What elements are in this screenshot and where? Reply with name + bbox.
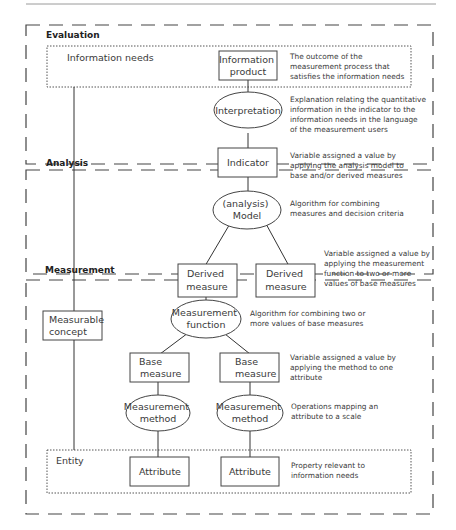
desc-interpretation: Explanation relating the quantitative in…	[290, 95, 428, 134]
desc-attribute: Property relevant to information needs	[291, 461, 367, 480]
desc-derived-measure: Variable assigned a value by applying th…	[324, 249, 432, 288]
label-entity: Entity	[56, 455, 84, 466]
node-indicator-label: Indicator	[227, 157, 269, 168]
desc-measurement-method: Operations mapping an attribute to a sca…	[291, 402, 380, 421]
desc-base-measure: Variable assigned a value by applying th…	[290, 353, 398, 382]
desc-measurement-function: Algorithm for combining two or more valu…	[250, 309, 368, 328]
desc-information-product: The outcome of the measurement process t…	[289, 52, 405, 81]
desc-analysis-model: Algorithm for combining measures and dec…	[290, 199, 404, 218]
node-attribute-2-label: Attribute	[229, 466, 271, 477]
label-information-needs: Information needs	[67, 52, 154, 63]
desc-indicator: Variable assigned a value by applying th…	[290, 151, 406, 180]
section-title-measurement: Measurement	[45, 265, 115, 275]
section-title-evaluation: Evaluation	[46, 30, 100, 40]
node-interpretation-label: Interpretation	[215, 105, 281, 116]
node-attribute-1-label: Attribute	[139, 466, 181, 477]
section-title-analysis: Analysis	[46, 158, 88, 168]
measurement-information-model-diagram: Evaluation Analysis Measurement Informat…	[0, 0, 456, 530]
